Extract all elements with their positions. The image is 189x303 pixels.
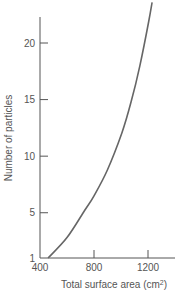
x-axis-label-end: ) xyxy=(164,279,167,290)
y-tick-label: 5 xyxy=(29,207,35,218)
chart: 15101520 4008001200 Number of particles … xyxy=(0,0,189,303)
y-ticks: 15101520 xyxy=(24,38,48,264)
x-axis-label-base: Total surface area (cm xyxy=(61,279,160,290)
x-tick-label: 800 xyxy=(86,262,103,273)
x-tick-label: 400 xyxy=(32,262,49,273)
y-tick-label: 15 xyxy=(24,94,36,105)
x-tick-label: 1200 xyxy=(137,262,160,273)
x-axis-label: Total surface area (cm2) xyxy=(61,279,167,291)
x-ticks: 4008001200 xyxy=(32,250,160,273)
y-tick-label: 10 xyxy=(24,151,36,162)
y-axis-label: Number of particles xyxy=(3,95,14,182)
data-curve xyxy=(48,2,152,258)
y-tick-label: 20 xyxy=(24,38,36,49)
